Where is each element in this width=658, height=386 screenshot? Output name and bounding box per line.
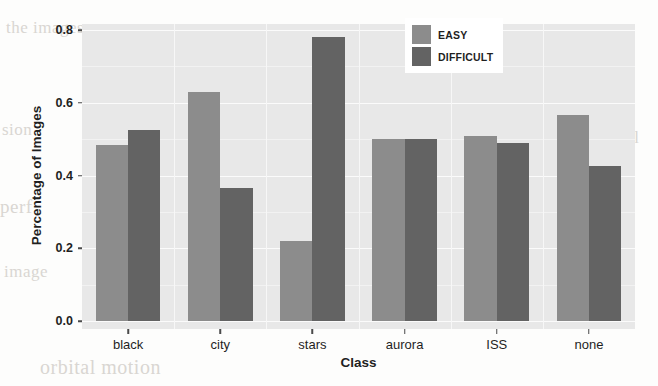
legend-swatch-difficult-icon (412, 47, 431, 66)
y-axis-tick-mark (78, 320, 82, 322)
legend-label-easy: EASY (438, 29, 467, 41)
x-axis-title: Class (82, 355, 635, 370)
legend-item-easy: EASY (412, 25, 493, 44)
bar-none-difficult (589, 166, 621, 321)
x-axis-tick-label-city: city (211, 337, 231, 352)
legend-item-difficult: DIFFICULT (412, 47, 493, 66)
x-axis-tick-label-none: none (574, 337, 603, 352)
x-axis-tick-label-stars: stars (298, 337, 326, 352)
x-axis-tick-mark (496, 329, 498, 334)
x-axis-tick-label-iss: ISS (486, 337, 507, 352)
bar-stars-easy (280, 241, 312, 321)
gridline-vertical (543, 24, 544, 329)
bar-city-difficult (220, 188, 252, 321)
gridline-vertical (359, 24, 360, 329)
bar-city-easy (188, 92, 220, 321)
x-axis-tick-mark (312, 329, 314, 334)
bar-iss-easy (464, 136, 496, 322)
x-axis-tick-label-aurora: aurora (386, 337, 424, 352)
chart-legend: EASY DIFFICULT (405, 18, 503, 73)
bar-black-difficult (128, 130, 160, 321)
x-axis-tick-mark (404, 329, 406, 334)
gridline-vertical (266, 24, 267, 329)
y-axis-tick-mark (78, 175, 82, 177)
bar-stars-difficult (312, 37, 344, 321)
x-axis-tick-mark (220, 329, 222, 334)
bar-iss-difficult (497, 143, 529, 321)
legend-swatch-easy-icon (412, 25, 431, 44)
y-axis-tick-mark (78, 102, 82, 104)
bar-aurora-difficult (405, 139, 437, 321)
bar-none-easy (557, 115, 589, 321)
x-axis-tick-mark (127, 329, 129, 334)
y-axis-title: Percentage of Images (29, 76, 44, 276)
legend-label-difficult: DIFFICULT (438, 51, 493, 63)
plot-area: 0.00.20.40.60.8blackcitystarsauroraISSno… (82, 24, 635, 329)
bar-aurora-easy (372, 139, 404, 321)
x-axis-tick-mark (588, 329, 590, 334)
y-axis-tick-mark (78, 29, 82, 31)
bar-black-easy (96, 145, 128, 321)
figure-canvas: the images sion perf image inal cu orbit… (0, 0, 658, 386)
gridline-vertical (174, 24, 175, 329)
y-axis-tick-mark (78, 248, 82, 250)
x-axis-tick-label-black: black (113, 337, 143, 352)
